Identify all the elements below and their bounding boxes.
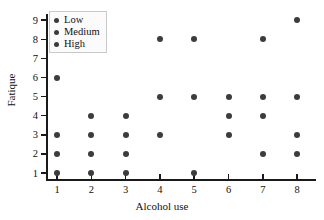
x-tick-label: 3 xyxy=(118,184,134,195)
data-point xyxy=(123,132,129,138)
data-point xyxy=(260,113,266,119)
legend-item-label: Medium xyxy=(64,26,100,38)
data-point xyxy=(294,94,300,100)
legend-marker-icon xyxy=(54,42,59,47)
x-tick-label: 5 xyxy=(186,184,202,195)
x-tick-label: 6 xyxy=(221,184,237,195)
data-point xyxy=(260,94,266,100)
y-tick-label: 5 xyxy=(24,91,38,102)
x-tick-label: 1 xyxy=(49,184,65,195)
x-tick-label: 8 xyxy=(289,184,305,195)
data-point xyxy=(157,132,163,138)
data-point xyxy=(123,170,129,176)
legend-item[interactable]: Low xyxy=(54,14,100,26)
legend-item[interactable]: High xyxy=(54,38,100,50)
data-point xyxy=(226,132,232,138)
data-point xyxy=(54,151,60,157)
x-tick-label: 2 xyxy=(83,184,99,195)
y-axis-title: Fatique xyxy=(5,55,17,125)
x-tick-label: 7 xyxy=(255,184,271,195)
data-point xyxy=(54,170,60,176)
y-tick-label: 1 xyxy=(24,168,38,179)
data-point xyxy=(123,151,129,157)
legend-item[interactable]: Medium xyxy=(54,26,100,38)
x-tick-label: 4 xyxy=(152,184,168,195)
legend-item-label: Low xyxy=(64,14,83,26)
y-tick-label: 3 xyxy=(24,129,38,140)
y-tick-label: 2 xyxy=(24,148,38,159)
legend-marker-icon xyxy=(54,18,59,23)
scatter-chart: 123456789 12345678 Fatique Alcohol use L… xyxy=(0,0,324,220)
x-axis-line xyxy=(46,179,316,181)
data-point xyxy=(226,113,232,119)
x-axis-title: Alcohol use xyxy=(0,200,324,212)
data-point xyxy=(54,132,60,138)
data-point xyxy=(191,94,197,100)
legend: LowMediumHigh xyxy=(49,11,107,53)
y-tick-label: 6 xyxy=(24,72,38,83)
data-point xyxy=(260,151,266,157)
y-tick-label: 4 xyxy=(24,110,38,121)
y-tick-label: 8 xyxy=(24,34,38,45)
data-point xyxy=(88,113,94,119)
data-point xyxy=(294,132,300,138)
data-point xyxy=(123,113,129,119)
legend-marker-icon xyxy=(54,30,59,35)
y-tick-label: 7 xyxy=(24,53,38,64)
data-point xyxy=(157,94,163,100)
data-point xyxy=(294,151,300,157)
y-tick-label: 9 xyxy=(24,15,38,26)
legend-item-label: High xyxy=(64,38,85,50)
data-point xyxy=(54,75,60,81)
data-point xyxy=(226,94,232,100)
